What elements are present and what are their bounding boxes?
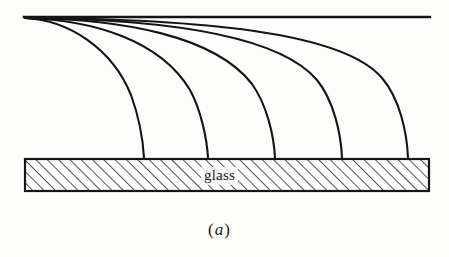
field-line-1 <box>25 18 144 158</box>
field-line-5 <box>25 18 408 158</box>
glass-material-label: glass <box>201 167 238 185</box>
figure-container: glass (a) <box>0 0 449 257</box>
field-line-diagram <box>0 0 449 257</box>
field-lines-group <box>25 18 408 158</box>
caption-open-paren: ( <box>208 220 214 239</box>
figure-caption: (a) <box>208 221 230 238</box>
caption-letter: a <box>214 220 225 239</box>
caption-close-paren: ) <box>224 220 230 239</box>
